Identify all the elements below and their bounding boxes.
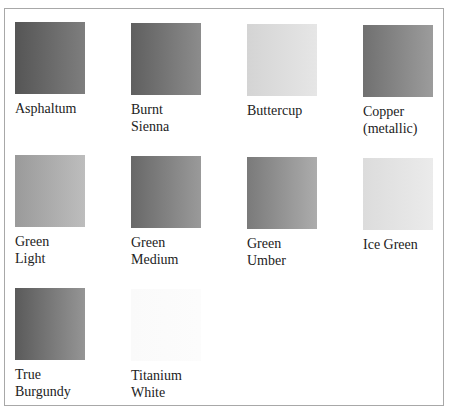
swatch-item: Green Light [15, 155, 115, 267]
color-swatch [247, 24, 317, 96]
swatch-item: Buttercup [247, 24, 347, 119]
swatch-item: Green Umber [247, 157, 347, 269]
color-swatch [15, 288, 85, 360]
swatch-item: Copper (metallic) [363, 25, 455, 137]
color-swatch [15, 22, 85, 94]
swatch-item: Asphaltum [15, 22, 115, 117]
color-swatch [363, 158, 433, 230]
color-swatch [131, 23, 201, 95]
swatch-label: Copper (metallic) [363, 103, 455, 137]
swatch-item: Green Medium [131, 156, 231, 268]
color-swatch [131, 289, 201, 361]
color-swatch [363, 25, 433, 97]
color-swatch [247, 157, 317, 229]
color-swatch [15, 155, 85, 227]
swatch-label: Green Light [15, 233, 115, 267]
swatch-item: Ice Green [363, 158, 455, 253]
swatch-label: Green Medium [131, 234, 231, 268]
swatch-label: True Burgundy [15, 366, 115, 400]
swatch-label: Asphaltum [15, 100, 115, 117]
swatch-label: Ice Green [363, 236, 455, 253]
swatch-label: Titanium White [131, 367, 231, 401]
swatch-label: Burnt Sienna [131, 101, 231, 135]
color-swatch [131, 156, 201, 228]
swatch-item: Titanium White [131, 289, 231, 401]
swatch-label: Buttercup [247, 102, 347, 119]
swatch-item: Burnt Sienna [131, 23, 231, 135]
swatch-label: Green Umber [247, 235, 347, 269]
swatch-item: True Burgundy [15, 288, 115, 400]
